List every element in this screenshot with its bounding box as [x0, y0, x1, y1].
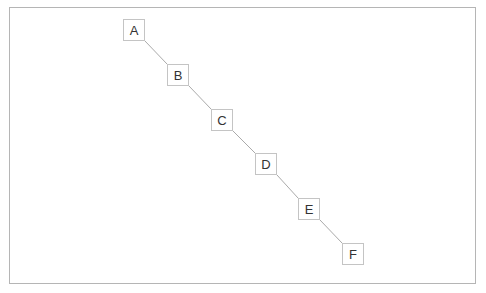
- node-label: D: [261, 157, 270, 172]
- node-b[interactable]: B: [167, 64, 189, 86]
- node-e[interactable]: E: [298, 198, 320, 220]
- edges-layer: [0, 0, 486, 293]
- node-label: E: [305, 202, 314, 217]
- edge-a-b: [145, 41, 167, 64]
- node-label: C: [217, 113, 226, 128]
- node-label: B: [174, 68, 183, 83]
- edge-c-d: [233, 131, 255, 153]
- edge-e-f: [320, 220, 342, 243]
- edge-b-c: [189, 86, 211, 109]
- edge-d-e: [277, 175, 298, 198]
- node-f[interactable]: F: [342, 243, 364, 265]
- node-label: A: [130, 23, 139, 38]
- node-d[interactable]: D: [255, 153, 277, 175]
- node-label: F: [349, 247, 357, 262]
- node-c[interactable]: C: [211, 109, 233, 131]
- node-a[interactable]: A: [123, 19, 145, 41]
